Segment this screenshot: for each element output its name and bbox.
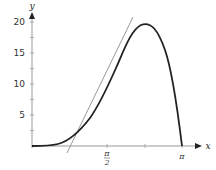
x-axis-label: x bbox=[205, 141, 210, 151]
y-tick-label-15: 15 bbox=[14, 48, 25, 58]
function-curve bbox=[32, 24, 182, 146]
y-axis-label: y bbox=[28, 1, 35, 11]
y-axis-arrow-icon bbox=[29, 12, 35, 19]
y-tick-label-5: 5 bbox=[19, 110, 25, 120]
y-tick-label-20: 20 bbox=[14, 17, 26, 27]
x-axis-arrow-icon bbox=[195, 143, 202, 149]
x-tick-label-pi-half: π 2 bbox=[103, 149, 110, 167]
axes bbox=[29, 12, 202, 149]
y-tick-label-10: 10 bbox=[14, 79, 26, 89]
plot-canvas: 20 15 10 5 y x π 2 π bbox=[0, 0, 216, 170]
x-tick-label-pi: π bbox=[178, 152, 185, 161]
pi-half-denominator: 2 bbox=[103, 158, 109, 167]
pi-half-numerator: π bbox=[103, 149, 110, 158]
